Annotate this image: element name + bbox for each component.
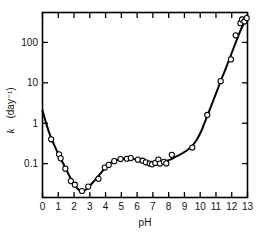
data-point-marker (86, 184, 91, 189)
y-axis-title-units: (day⁻¹) (5, 87, 16, 118)
data-point-marker (118, 156, 123, 161)
data-point-marker (233, 33, 238, 38)
x-tick-label: 3 (87, 201, 93, 212)
x-tick-label: 5 (119, 201, 125, 212)
x-tick-label: 4 (103, 201, 109, 212)
y-tick-label: 100 (21, 37, 38, 48)
data-point-marker (190, 145, 195, 150)
x-tick-label: 2 (71, 201, 77, 212)
y-tick-label: 1 (32, 118, 38, 129)
data-point-marker (79, 188, 84, 193)
data-point-marker (218, 79, 223, 84)
x-axis-title: pH (139, 217, 152, 228)
chart-canvas: 012345678910111213 0.1110100 pH k (day⁻¹… (0, 0, 262, 236)
x-tick-label: 11 (211, 201, 222, 212)
rate-ph-profile-figure: 012345678910111213 0.1110100 pH k (day⁻¹… (0, 0, 262, 236)
x-tick-label: 13 (242, 201, 254, 212)
data-point-marker (112, 159, 117, 164)
data-point-marker (58, 156, 63, 161)
data-point-marker (72, 182, 77, 187)
x-tick-label: 12 (226, 201, 238, 212)
x-tick-label: 9 (182, 201, 188, 212)
data-point-marker (164, 161, 169, 166)
x-tick-label: 1 (55, 201, 61, 212)
data-point-marker (205, 112, 210, 117)
x-tick-label: 7 (150, 201, 156, 212)
x-tick-label: 0 (40, 201, 46, 212)
data-point-marker (169, 152, 174, 157)
data-point-marker (96, 176, 101, 181)
y-tick-label: 10 (27, 77, 39, 88)
data-point-marker (228, 57, 233, 62)
data-point-marker (244, 15, 249, 20)
x-tick-label: 8 (166, 201, 172, 212)
data-point-marker (128, 155, 133, 160)
data-point-marker (63, 166, 68, 171)
x-tick-label: 6 (134, 201, 140, 212)
x-tick-label: 10 (195, 201, 207, 212)
data-point-marker (106, 162, 111, 167)
data-point-marker (49, 137, 54, 142)
y-tick-label: 0.1 (24, 158, 38, 169)
